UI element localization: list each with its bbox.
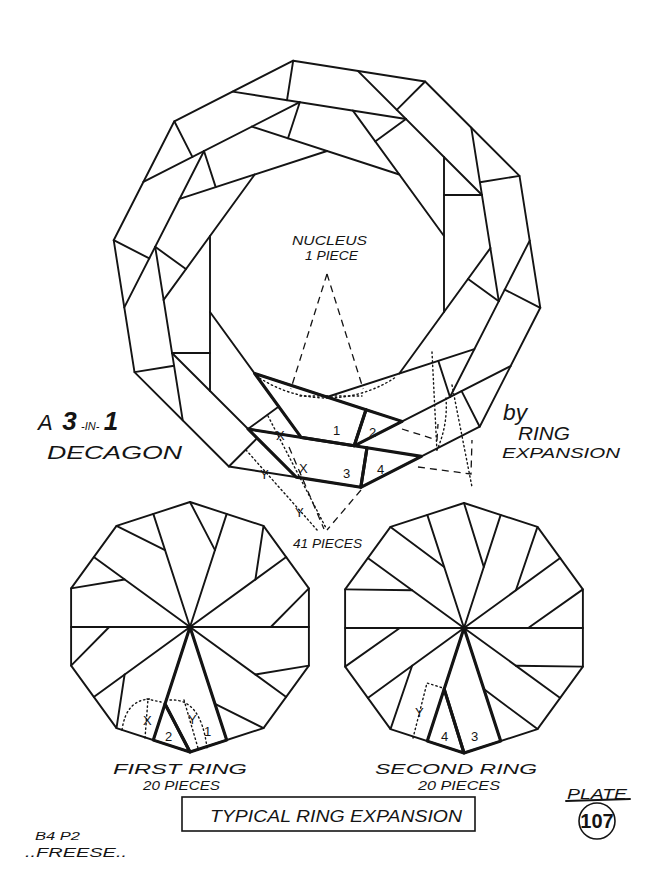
main-piece-2-outline [354, 410, 402, 446]
pinwheel-cut [464, 503, 484, 567]
second-ring-piece-cut [397, 82, 425, 110]
second-ring-piece-cut [114, 240, 150, 258]
first-ring-piece-count: 20 PIECES [142, 779, 220, 793]
second-ring-marker-y: Y [415, 705, 424, 720]
second-ring-piece-count: 20 PIECES [417, 779, 500, 793]
first-ring-piece-number: 2 [165, 729, 172, 744]
credit-author: ..FREESE.. [25, 846, 127, 860]
second-ring-piece-number: 3 [471, 729, 478, 744]
pinwheel-cut [345, 589, 412, 590]
total-pieces-label: 41 PIECES [293, 537, 362, 551]
marker-y: Y [295, 505, 304, 520]
spoke-line [427, 515, 464, 628]
second-ring-piece-cut [287, 61, 293, 100]
spoke-line [153, 514, 190, 627]
plate-107-drawing: NUCLEUS 1 PIECE A 3 -IN- 1 DECAGON by RI… [0, 0, 661, 887]
dashed-guide-line [327, 490, 361, 530]
first-ring-label: FIRST RING [113, 760, 248, 777]
title-three: 3 [62, 406, 77, 436]
spoke-line [94, 557, 190, 627]
spoke-line [464, 628, 560, 698]
second-ring-piece-number: 4 [441, 729, 448, 744]
spoke-line [368, 558, 464, 628]
first-ring-piece-number: 1 [204, 724, 211, 739]
pinwheel-cut [271, 588, 309, 627]
main-piece-number: 4 [377, 462, 384, 477]
nucleus-piece-count: 1 PIECE [305, 249, 359, 263]
marker-x: X [276, 428, 285, 443]
highlighted-piece-triangle [153, 704, 190, 752]
title-expansion: EXPANSION [502, 445, 621, 461]
first-ring-piece-cut [248, 407, 279, 429]
pinwheel-cut [71, 627, 109, 666]
highlighted-piece-quad [165, 627, 227, 752]
caption-text: TYPICAL RING EXPANSION [210, 807, 463, 826]
first-ring-piece-cut [468, 279, 499, 301]
pinwheel-cut [391, 527, 445, 567]
dashed-guide-line [402, 424, 438, 440]
spoke-line [464, 515, 501, 628]
second-ring-strip-line [471, 128, 499, 301]
spoke-line [368, 628, 464, 698]
first-ring-strip-line [353, 111, 444, 236]
second-ring-strip-line [124, 151, 204, 307]
main-piece-number: 3 [343, 466, 350, 481]
pinwheel-cut [255, 526, 263, 580]
first-ring-piece-cut [438, 361, 450, 397]
second-ring-piece-cut [505, 290, 541, 308]
dotted-guide-line [437, 398, 446, 450]
title-in: -IN- [81, 420, 100, 432]
second-ring-strip-line [450, 241, 530, 397]
title-a: A [36, 410, 53, 435]
marker-x: X [299, 461, 308, 476]
nucleus-label: NUCLEUS [292, 234, 367, 248]
title-by: by [503, 400, 529, 425]
spoke-line [190, 514, 227, 627]
pinwheel-cut [528, 589, 583, 628]
pinwheel-cut [71, 580, 125, 589]
spoke-line [190, 627, 286, 697]
dotted-guide-line [432, 352, 437, 452]
pinwheel-cut [255, 666, 309, 675]
title-decagon: DECAGON [47, 442, 182, 463]
plate-number: 107 [580, 810, 613, 832]
main-piece-number: 2 [369, 425, 376, 440]
dashed-guide-line [327, 274, 363, 389]
second-ring-strip-line [233, 92, 406, 119]
dashed-guide-line [291, 274, 327, 389]
main-piece-number: 1 [333, 423, 340, 438]
first-ring-marker-x: X [143, 713, 152, 728]
second-ring-piece-cut [135, 366, 175, 372]
second-ring-decagon [345, 503, 583, 753]
first-ring-strip-line [180, 151, 327, 199]
second-ring-piece-cut [462, 391, 480, 427]
pinwheel-cut [516, 527, 538, 590]
marker-y: Y [260, 467, 269, 482]
second-ring-piece-cut [174, 121, 192, 157]
first-ring-piece-cut [155, 247, 186, 269]
title-ring: RING [518, 423, 570, 444]
second-ring-piece-cut [480, 176, 520, 182]
second-ring-strip-line [358, 71, 482, 195]
main-piece-4-outline [361, 448, 422, 488]
second-ring-strip-line [155, 247, 183, 420]
second-ring-label: SECOND RING [375, 760, 538, 777]
first-ring-piece-cut [204, 151, 216, 187]
first-ring-piece-cut [375, 119, 406, 141]
second-ring-strip-line [143, 102, 299, 182]
title-line-1: A 3 -IN- 1 [36, 406, 118, 436]
pinwheel-cut [516, 666, 583, 667]
spoke-line [464, 558, 560, 628]
second-ring-piece-cut [229, 438, 257, 466]
pinwheel-cut [345, 628, 400, 667]
first-ring-marker-y: Y [188, 712, 197, 727]
spoke-line [190, 557, 286, 627]
pinwheel-cut [391, 666, 413, 729]
credit-reference: B4 P2 [35, 830, 80, 842]
spoke-line [94, 627, 190, 697]
title-one: 1 [104, 406, 118, 436]
